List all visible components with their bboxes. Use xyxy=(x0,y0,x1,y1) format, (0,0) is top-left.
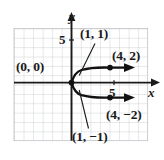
label-point-4-neg2: (4, −2) xyxy=(106,108,142,122)
coordinate-graph-figure: (0, 0) (1, 1) (4, 2) (4, −2) (1, −1) 5 5… xyxy=(0,0,164,160)
label-point-1-neg1: (1, −1) xyxy=(72,130,108,144)
axis-label-x: x xyxy=(148,86,154,99)
label-point-4-2: (4, 2) xyxy=(112,49,140,63)
axis-label-y: y xyxy=(69,10,75,23)
grid-lines xyxy=(14,29,148,141)
tick-label-x-5: 5 xyxy=(109,86,115,99)
data-point-4-2 xyxy=(107,65,113,71)
tick-label-y-5: 5 xyxy=(59,33,65,46)
label-point-origin: (0, 0) xyxy=(16,60,44,74)
data-point-0-0 xyxy=(69,80,75,86)
label-point-1-1: (1, 1) xyxy=(80,27,108,41)
